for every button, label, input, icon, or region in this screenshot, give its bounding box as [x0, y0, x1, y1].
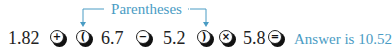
- open-paren-key[interactable]: (: [76, 30, 92, 46]
- answer-text: Answer is 10.52: [294, 30, 392, 48]
- open-paren-icon: (: [76, 30, 90, 44]
- number-1-82: 1.82: [8, 28, 40, 48]
- arrow-down-icon: [80, 22, 86, 27]
- equals-key[interactable]: =: [268, 30, 284, 46]
- multiply-key[interactable]: ×: [219, 30, 235, 46]
- plus-key[interactable]: +: [50, 30, 66, 46]
- minus-icon: −: [136, 30, 150, 44]
- close-paren-icon: ): [197, 30, 211, 44]
- number-6-7: 6.7: [101, 28, 124, 48]
- number-5-2: 5.2: [163, 28, 186, 48]
- minus-key[interactable]: −: [136, 30, 152, 46]
- plus-icon: +: [50, 30, 64, 44]
- equals-icon: =: [268, 30, 282, 44]
- close-paren-key[interactable]: ): [197, 30, 213, 46]
- arrow-down-icon: [203, 22, 209, 27]
- number-5-8: 5.8: [243, 28, 266, 48]
- multiply-icon: ×: [219, 30, 233, 44]
